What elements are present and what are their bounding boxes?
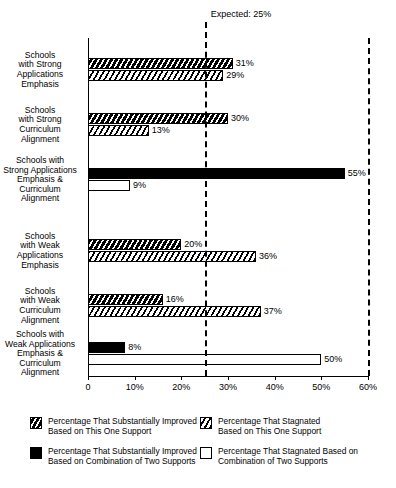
legend-label-line: Based on Combination of Two Supports	[48, 456, 197, 466]
legend-swatch-dark-hatch	[30, 417, 42, 429]
category-label-1: Schoolswith StrongCurriculumAlignment	[1, 106, 79, 144]
category-label-line: Alignment	[1, 316, 79, 326]
legend-label-3: Percentage That Stagnated Based onCombin…	[218, 446, 358, 466]
bar-g2-r1	[88, 180, 130, 191]
category-label-line: Emphasis	[1, 261, 79, 271]
chart-legend: Percentage That Substantially ImprovedBa…	[0, 404, 396, 488]
legend-label-line: Percentage That Stagnated Based on	[218, 446, 358, 456]
bar-value-label-g2-r1: 9%	[133, 180, 146, 191]
plot-area: 010%20%30%40%50%60% Schoolswith StrongAp…	[0, 0, 396, 400]
bar-value-label-g3-r0: 20%	[184, 239, 202, 250]
legend-item-0: Percentage That Substantially ImprovedBa…	[30, 416, 197, 436]
bar-value-label-g4-r0: 16%	[166, 294, 184, 305]
bar-g0-r1	[88, 70, 223, 81]
bar-value-label-g5-r0: 8%	[128, 342, 141, 353]
category-label-line: Emphasis	[1, 80, 79, 90]
x-tick-label-0: 0	[68, 382, 108, 393]
bar-g2-r0	[88, 168, 345, 179]
x-tick-label-40: 40%	[255, 382, 295, 393]
bar-chart: 010%20%30%40%50%60% Schoolswith StrongAp…	[0, 0, 396, 488]
category-label-3: Schoolswith WeakApplicationsEmphasis	[1, 232, 79, 270]
bar-g4-r1	[88, 306, 261, 317]
x-tick-label-60: 60%	[348, 382, 388, 393]
bar-value-label-g3-r1: 36%	[259, 251, 277, 262]
x-tick-0	[88, 376, 89, 380]
legend-swatch-light-hatch	[200, 417, 212, 429]
x-tick-label-10: 10%	[115, 382, 155, 393]
legend-label-1: Percentage That StagnatedBased on This O…	[218, 416, 321, 436]
legend-label-line: Percentage That Substantially Improved	[48, 446, 197, 456]
x-tick-10	[135, 376, 136, 380]
bar-g1-r0	[88, 113, 228, 124]
bar-g3-r0	[88, 239, 181, 250]
category-label-0: Schoolswith StrongApplicationsEmphasis	[1, 51, 79, 89]
y-axis-line	[88, 38, 89, 376]
expected-annotation-label: Expected: 25%	[211, 9, 272, 19]
category-label-2: Schools withStrong ApplicationsEmphasis …	[1, 156, 79, 204]
category-label-5: Schools withWeak ApplicationsEmphasis &C…	[1, 330, 79, 378]
x-tick-20	[181, 376, 182, 380]
category-label-4: Schoolswith WeakCurriculumAlignment	[1, 287, 79, 325]
legend-label-line: Combination of Two Supports	[218, 456, 358, 466]
legend-label-0: Percentage That Substantially ImprovedBa…	[48, 416, 197, 436]
legend-label-line: Percentage That Stagnated	[218, 416, 321, 426]
bar-g4-r0	[88, 294, 163, 305]
bar-value-label-g0-r0: 31%	[236, 58, 254, 69]
legend-label-2: Percentage That Substantially ImprovedBa…	[48, 446, 197, 466]
legend-item-1: Percentage That StagnatedBased on This O…	[200, 416, 321, 436]
x-tick-label-20: 20%	[161, 382, 201, 393]
legend-swatch-solid-black	[30, 447, 42, 459]
legend-label-line: Based on This One Support	[48, 426, 197, 436]
bar-value-label-g5-r1: 50%	[324, 354, 342, 365]
expected-line	[205, 22, 207, 376]
category-label-line: Alignment	[1, 135, 79, 145]
bar-g3-r1	[88, 251, 256, 262]
x-tick-label-50: 50%	[301, 382, 341, 393]
x-tick-60	[368, 376, 369, 380]
bar-value-label-g1-r0: 30%	[231, 113, 249, 124]
x-tick-40	[275, 376, 276, 380]
x-tick-50	[321, 376, 322, 380]
bar-value-label-g2-r0: 55%	[348, 168, 366, 179]
bar-value-label-g0-r1: 29%	[226, 70, 244, 81]
legend-swatch-outline	[200, 447, 212, 459]
legend-item-2: Percentage That Substantially ImprovedBa…	[30, 446, 197, 466]
x-tick-label-30: 30%	[208, 382, 248, 393]
axis-max-line	[368, 38, 370, 376]
bar-value-label-g1-r1: 13%	[152, 125, 170, 136]
legend-item-3: Percentage That Stagnated Based onCombin…	[200, 446, 358, 466]
legend-label-line: Percentage That Substantially Improved	[48, 416, 197, 426]
bar-value-label-g4-r1: 37%	[264, 306, 282, 317]
bar-g5-r0	[88, 342, 125, 353]
x-tick-30	[228, 376, 229, 380]
category-label-line: Alignment	[1, 194, 79, 204]
legend-label-line: Based on This One Support	[218, 426, 321, 436]
bar-g1-r1	[88, 125, 149, 136]
category-label-line: Alignment	[1, 368, 79, 378]
bar-g0-r0	[88, 58, 233, 69]
